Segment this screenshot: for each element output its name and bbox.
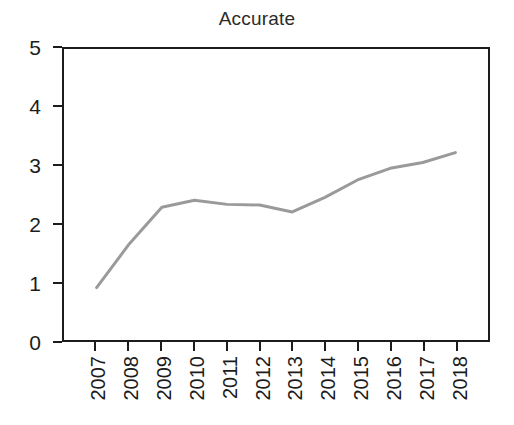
x-tick-label: 2017 — [416, 356, 439, 401]
x-tick-mark — [94, 342, 96, 351]
series-polyline — [97, 153, 456, 288]
x-tick-mark — [291, 342, 293, 351]
plot-area — [62, 47, 490, 342]
x-tick-mark — [259, 342, 261, 351]
x-tick-label: 2011 — [219, 356, 242, 399]
y-tick-label: 5 — [29, 37, 41, 58]
y-tick-mark — [53, 164, 62, 166]
chart-title: Accurate — [0, 8, 514, 30]
x-tick-label: 2013 — [284, 356, 307, 401]
y-tick-label: 0 — [29, 332, 41, 353]
y-tick-label: 1 — [29, 273, 41, 294]
x-tick-mark — [193, 342, 195, 351]
x-tick-mark — [127, 342, 129, 351]
x-tick-label: 2010 — [186, 356, 209, 401]
x-tick-label: 2014 — [317, 356, 340, 401]
y-tick-mark — [53, 105, 62, 107]
y-tick-mark — [53, 223, 62, 225]
x-tick-label: 2015 — [350, 356, 373, 401]
x-tick-label: 2016 — [383, 356, 406, 401]
y-tick-label: 2 — [29, 214, 41, 235]
y-tick-mark — [53, 46, 62, 48]
x-tick-label: 2009 — [153, 356, 176, 401]
x-tick-label: 2012 — [252, 356, 275, 401]
x-tick-label: 2007 — [87, 356, 110, 401]
y-tick-label: 3 — [29, 155, 41, 176]
y-axis: 012345 — [0, 0, 62, 425]
x-axis: 2007200820092010201120122013201420152016… — [62, 342, 490, 425]
y-tick-label: 4 — [29, 96, 41, 117]
x-tick-mark — [324, 342, 326, 351]
x-tick-label: 2018 — [449, 356, 472, 401]
line-series — [64, 49, 488, 340]
chart-figure: Accurate 012345 200720082009201020112012… — [0, 0, 514, 425]
x-tick-mark — [423, 342, 425, 351]
x-tick-label: 2008 — [120, 356, 143, 401]
x-tick-mark — [226, 342, 228, 351]
y-tick-mark — [53, 282, 62, 284]
x-tick-mark — [357, 342, 359, 351]
y-tick-mark — [53, 341, 62, 343]
x-tick-mark — [390, 342, 392, 351]
x-tick-mark — [456, 342, 458, 351]
x-tick-mark — [160, 342, 162, 351]
